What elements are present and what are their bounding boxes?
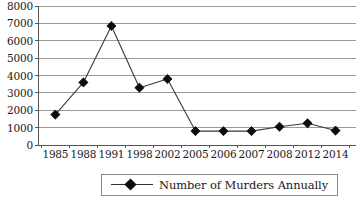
y-axis-tick-label: 4000	[0, 71, 33, 81]
x-axis-tick-label: 2006	[211, 148, 237, 161]
gridlines	[38, 6, 356, 128]
x-axis-tick-label: 2014	[323, 148, 349, 161]
y-axis-tick-label: 1000	[0, 123, 33, 133]
x-axis-tick-labels: 1985198819911998200220052006200720082012…	[38, 148, 356, 164]
chart-legend: Number of Murders Annually	[101, 174, 338, 196]
y-axis-tick-label: 0	[0, 140, 33, 150]
legend-label: Number of Murders Annually	[159, 179, 328, 192]
x-axis-tick-label: 2012	[295, 148, 321, 161]
y-axis-tick-label: 2000	[0, 105, 33, 115]
x-axis-tick-label: 2002	[154, 148, 180, 161]
axis-lines	[38, 6, 356, 145]
x-axis-tick-label: 1988	[70, 148, 96, 161]
x-axis-tick-label: 2008	[267, 148, 293, 161]
x-axis-tick-label: 1991	[98, 148, 124, 161]
y-axis-tick-label: 8000	[0, 1, 33, 11]
x-axis-tick-label: 2005	[182, 148, 208, 161]
y-axis-tick-label: 5000	[0, 53, 33, 63]
y-axis-tick-label: 3000	[0, 88, 33, 98]
x-axis-tick-label: 1998	[126, 148, 152, 161]
y-axis-tick-label: 6000	[0, 36, 33, 46]
x-axis-tick-label: 2007	[239, 148, 265, 161]
y-axis-ticks	[35, 6, 38, 145]
data-series-line	[55, 26, 335, 131]
y-axis-tick-labels: 010002000300040005000600070008000	[0, 6, 33, 145]
y-axis-tick-label: 7000	[0, 18, 33, 28]
data-point-markers	[51, 21, 340, 135]
x-axis-tick-label: 1985	[42, 148, 68, 161]
line-chart: 010002000300040005000600070008000 198519…	[0, 0, 361, 207]
legend-marker-icon	[111, 179, 153, 191]
